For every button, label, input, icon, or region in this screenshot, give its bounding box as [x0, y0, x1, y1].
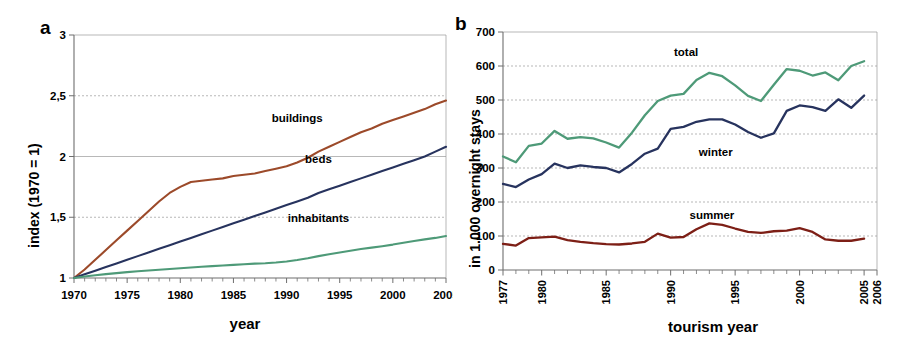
panel-a-letter: a [40, 18, 51, 37]
panel-b-x-tick-label: 1977 [497, 280, 509, 304]
panel-b-x-tick-label: 2005 [858, 280, 870, 304]
panel-b: b in 1.000 overnight stays tourism year … [453, 0, 906, 342]
panel-b-y-tick-label: 600 [476, 60, 495, 72]
panel-b-series-summer [503, 223, 864, 245]
panel-b-x-tick-label: 2006 [871, 280, 883, 304]
panel-a-x-tick-label: 2005 [433, 289, 453, 301]
panel-a-y-tick-label: 2,5 [50, 90, 67, 102]
panel-a-plot: 11,522,531970197519801985199019952000200… [0, 0, 453, 342]
panel-a-series-beds [74, 147, 446, 278]
panel-b-x-tick-label: 1990 [665, 280, 677, 304]
panel-a-y-tick-label: 1 [60, 272, 67, 284]
panel-a-y-axis-title: index (1970 = 1) [26, 143, 42, 248]
panel-a-series-buildings [74, 101, 446, 278]
panel-a-x-axis-title: year [80, 315, 410, 332]
panel-a-x-tick-label: 1995 [327, 289, 353, 301]
panel-b-y-tick-label: 0 [489, 264, 495, 276]
figure-two-panel-line-charts: a index (1970 = 1) year 11,522,531970197… [0, 0, 906, 342]
panel-b-x-tick-label: 2000 [794, 280, 806, 304]
panel-a-x-tick-label: 1985 [221, 289, 247, 301]
panel-a-series-inhabitants [74, 236, 446, 278]
panel-a: a index (1970 = 1) year 11,522,531970197… [0, 0, 453, 342]
panel-b-y-tick-label: 700 [476, 26, 495, 38]
panel-a-y-tick-label: 3 [60, 29, 66, 41]
panel-b-series-label-summer: summer [690, 209, 735, 221]
panel-a-x-tick-label: 1970 [61, 289, 87, 301]
panel-b-letter: b [455, 14, 467, 33]
panel-a-series-label-inhabitants: inhabitants [288, 212, 349, 224]
panel-a-y-tick-label: 1,5 [50, 211, 67, 223]
panel-a-series-label-buildings: buildings [272, 112, 323, 124]
panel-a-x-tick-label: 1990 [274, 289, 300, 301]
panel-b-x-tick-label: 1985 [600, 280, 612, 304]
panel-a-y-tick-label: 2 [60, 151, 66, 163]
panel-b-y-tick-label: 500 [476, 94, 495, 106]
panel-b-series-label-total: total [674, 46, 698, 58]
panel-a-x-tick-label: 1980 [167, 289, 193, 301]
panel-a-x-tick-label: 2000 [380, 289, 406, 301]
panel-b-series-total [503, 61, 864, 162]
panel-b-series-winter [503, 96, 864, 187]
panel-a-x-tick-label: 1975 [114, 289, 140, 301]
panel-a-series-label-beds: beds [305, 153, 332, 165]
panel-b-x-tick-label: 1980 [536, 280, 548, 304]
panel-b-y-axis-title: in 1.000 overnight stays [467, 109, 483, 268]
panel-b-series-label-winter: winter [698, 146, 733, 158]
panel-b-x-axis-title: tourism year [563, 318, 863, 335]
panel-b-x-tick-label: 1995 [729, 280, 741, 304]
panel-b-plot: 0100200300400500600700197719801985199019… [453, 0, 906, 342]
